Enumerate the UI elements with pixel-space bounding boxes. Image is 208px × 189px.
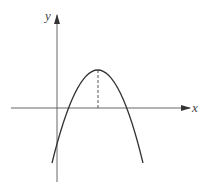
parabola-diagram: y x: [0, 0, 208, 189]
y-axis-label: y: [43, 8, 51, 23]
x-axis-label: x: [191, 100, 198, 115]
parabola-curve: [52, 70, 143, 163]
